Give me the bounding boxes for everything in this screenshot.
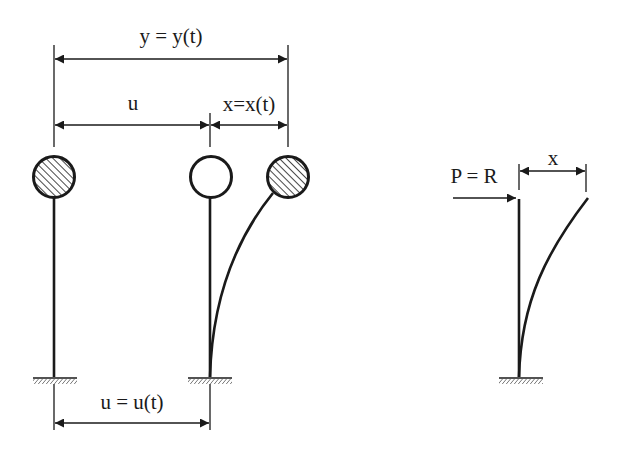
mass-original-icon xyxy=(34,157,75,198)
column-equivalent-static: x P = R xyxy=(450,146,588,384)
ground-support-icon xyxy=(33,378,77,384)
dimension-ground-displacement: u = u(t) xyxy=(55,390,209,423)
ground-support-icon xyxy=(188,378,232,384)
label-force: P = R xyxy=(450,164,497,188)
label-deflection: x xyxy=(548,146,559,170)
mass-displaced-icon xyxy=(268,157,309,198)
mass-reference-icon xyxy=(191,157,232,198)
label-total-displacement: y = y(t) xyxy=(139,24,202,48)
dimension-relative-displacement: x=x(t) xyxy=(211,92,287,125)
column-reference xyxy=(188,157,309,385)
deflected-column-static xyxy=(519,198,588,377)
ground-support-icon xyxy=(499,378,543,384)
label-ground-displacement: u = u(t) xyxy=(100,390,163,414)
diagram-canvas: y = y(t) u x=x(t) u xyxy=(0,0,619,454)
dimension-ground-offset: u xyxy=(55,91,209,125)
dimension-total-displacement: y = y(t) xyxy=(55,24,287,59)
label-relative-displacement: x=x(t) xyxy=(223,92,276,116)
label-ground-offset: u xyxy=(128,91,139,115)
deflected-column xyxy=(210,193,273,377)
column-original xyxy=(33,157,77,385)
